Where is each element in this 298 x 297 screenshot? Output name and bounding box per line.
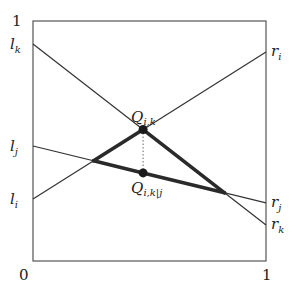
right-label-i: ri bbox=[271, 42, 281, 62]
plot-frame bbox=[33, 21, 266, 261]
left-label-k: lk bbox=[10, 35, 21, 55]
label-q-ikj: Qi,k|j bbox=[131, 179, 162, 199]
highlight-layer bbox=[94, 130, 225, 193]
right-label-j: rj bbox=[271, 193, 281, 213]
label-q-ik: Qi,k bbox=[131, 108, 156, 127]
y-max-label: 1 bbox=[12, 12, 22, 30]
left-label-i: li bbox=[10, 190, 18, 210]
point-q-ikj bbox=[139, 168, 148, 177]
thick-segment bbox=[94, 130, 144, 161]
left-label-j: lj bbox=[10, 137, 18, 157]
labels-layer: 1 0 1 lkrkljrjliriQi,kQi,k|j bbox=[10, 12, 284, 284]
x-min-label: 0 bbox=[19, 266, 29, 284]
x-max-label: 1 bbox=[262, 266, 272, 284]
right-label-k: rk bbox=[271, 215, 284, 235]
diagram-canvas: 1 0 1 lkrkljrjliriQi,kQi,k|j bbox=[0, 0, 298, 297]
thick-segment bbox=[94, 161, 144, 173]
